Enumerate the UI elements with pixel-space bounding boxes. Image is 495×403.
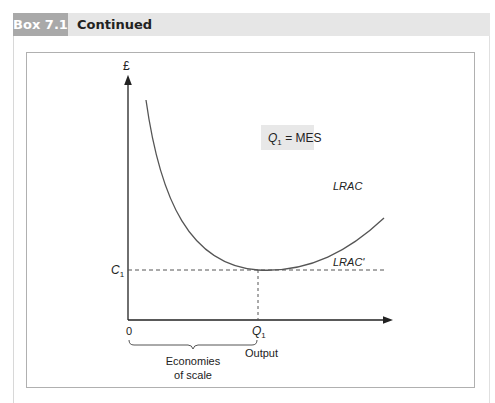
brace-label-line2: of scale <box>174 369 212 381</box>
lrac-diagram: Q1 = MES £ LRAC LRAC' C1 0 Q1 Output Eco… <box>0 0 495 403</box>
brace-label-line1: Economies <box>166 355 221 367</box>
lrac-label: LRAC <box>333 180 362 192</box>
x-axis-label: Output <box>245 347 278 359</box>
mes-annotation: Q1 = MES <box>268 131 321 147</box>
economies-brace <box>129 340 257 349</box>
origin-label: 0 <box>126 325 132 337</box>
c1-label: C1 <box>111 263 125 279</box>
y-axis-label: £ <box>123 59 130 73</box>
q1-label: Q1 <box>252 324 266 340</box>
lrac-prime-label: LRAC' <box>333 256 365 268</box>
